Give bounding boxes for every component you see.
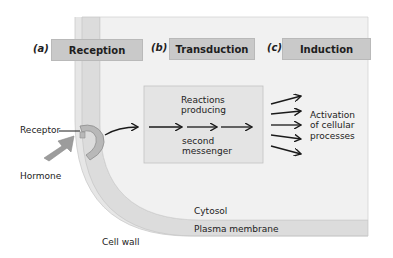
reception-stage-bar: Reception	[51, 39, 143, 61]
transduction-box-text-bottom: second messenger	[182, 136, 232, 157]
transduction-stage-bar: Transduction	[169, 38, 255, 60]
induction-stage-bar: Induction	[282, 38, 371, 60]
receptor-notch	[80, 132, 85, 138]
hormone-arrow-icon	[44, 136, 74, 161]
activation-line-2: of cellular	[310, 120, 355, 130]
hormone-label: Hormone	[20, 171, 61, 181]
plasma-membrane-label: Plasma membrane	[194, 224, 279, 234]
stage-a-letter: (a)	[33, 43, 49, 54]
transduction-box-text-top: Reactions producing	[181, 95, 226, 116]
signal-transduction-diagram: (a) (b) (c) Reception Transduction Induc…	[0, 0, 393, 258]
stage-b-letter: (b)	[151, 42, 167, 53]
reactions-text: Reactions	[181, 95, 226, 105]
activation-text: Activation of cellular processes	[310, 110, 355, 141]
producing-text: producing	[181, 105, 226, 115]
reception-label: Reception	[69, 45, 126, 56]
receptor-label: Receptor	[20, 125, 60, 135]
messenger-text: messenger	[182, 146, 232, 156]
activation-line-1: Activation	[310, 110, 355, 120]
transduction-label: Transduction	[176, 44, 249, 55]
cytosol-label: Cytosol	[194, 206, 227, 216]
induction-label: Induction	[300, 44, 353, 55]
cell-wall-label: Cell wall	[102, 237, 140, 247]
activation-line-3: processes	[310, 131, 355, 141]
second-text: second	[182, 136, 232, 146]
stage-c-letter: (c)	[267, 42, 282, 53]
